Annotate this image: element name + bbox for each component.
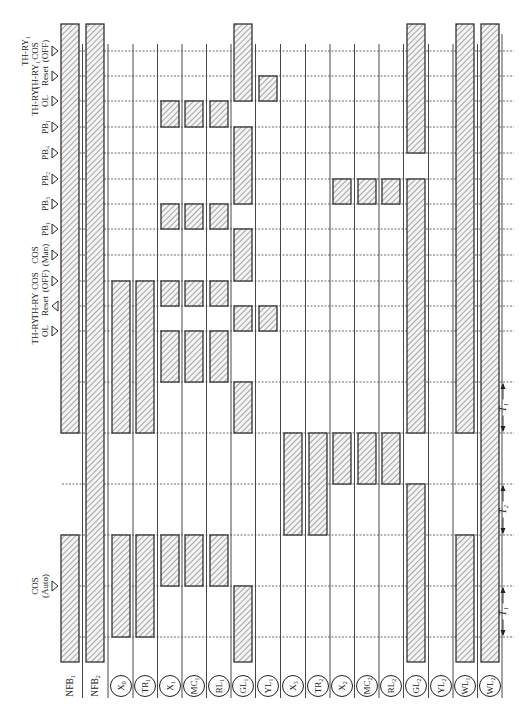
signal-bar-tr2 — [309, 433, 327, 535]
event-label: COS(Man) — [30, 244, 50, 267]
signal-bar-rl2 — [382, 433, 400, 484]
signal-bar-mc1 — [185, 101, 203, 127]
event-triangle-icon — [52, 122, 58, 132]
signal-bar-wl1 — [456, 535, 474, 662]
svg-text:COS: COS — [30, 272, 40, 290]
signal-bars — [61, 24, 499, 662]
event-triangle-icon — [52, 326, 58, 336]
signal-bar-rl1 — [210, 331, 228, 382]
event-label: TH-RYOL — [30, 317, 50, 345]
svg-text:(OFF): (OFF) — [40, 40, 50, 63]
svg-text:Reset: Reset — [40, 66, 50, 86]
signal-bar-mc2 — [358, 179, 376, 204]
svg-text:(Man): (Man) — [40, 244, 50, 267]
signal-bar-mc2 — [358, 433, 376, 484]
svg-text:OL: OL — [40, 95, 50, 107]
signal-bar-tr1 — [136, 535, 154, 637]
signal-bar-x1 — [161, 204, 179, 229]
svg-text:TH-RY: TH-RY — [30, 317, 40, 345]
event-triangle-icon — [52, 96, 58, 106]
signal-bar-x3 — [284, 433, 302, 535]
svg-text:NFB1: NFB1 — [65, 675, 76, 696]
signal-bar-mc1 — [185, 535, 203, 586]
signal-bar-rl2 — [382, 179, 400, 204]
event-triangle-icon — [52, 224, 58, 234]
signal-bar-yl1 — [259, 76, 277, 101]
svg-text:PB₂: PB₂ — [40, 172, 50, 186]
signal-bar-rl1 — [210, 204, 228, 229]
svg-text:OL: OL — [40, 325, 50, 337]
event-label: COS(Auto) — [30, 574, 50, 598]
signal-bar-nfb1 — [61, 24, 79, 433]
signal-bar-rl1 — [210, 281, 228, 306]
signal-bar-gl2 — [407, 484, 425, 662]
signal-bar-wl1 — [456, 24, 474, 433]
event-label: PB₄ — [40, 146, 50, 160]
svg-text:(Auto): (Auto) — [40, 574, 50, 598]
event-triangle-icon — [52, 276, 58, 286]
event-label: TH-RY₁OL — [30, 86, 50, 116]
signal-bar-x0 — [112, 535, 130, 637]
signal-bar-mc1 — [185, 331, 203, 382]
signal-bar-rl1 — [210, 101, 228, 127]
signal-bar-rl1 — [210, 535, 228, 586]
svg-text:TH-RY: TH-RY — [30, 292, 40, 320]
event-label: PB₁ — [40, 222, 50, 236]
svg-text:TH-RY₁: TH-RY₁ — [20, 36, 30, 66]
signal-bar-x2 — [333, 179, 351, 204]
signal-bar-tr1 — [136, 281, 154, 433]
event-label: TH-RYReset — [30, 292, 50, 320]
event-triangle-icon — [52, 174, 58, 184]
event-triangle-icon — [52, 199, 58, 209]
event-triangle-icon — [52, 148, 58, 158]
svg-text:PB₄: PB₄ — [40, 146, 50, 160]
signal-bar-nfb1 — [61, 535, 79, 662]
event-label: PB₁ — [40, 120, 50, 134]
timing-diagram: TH-RY₁COS(OFF)TH-RY₁ResetTH-RY₁OLPB₁PB₄P… — [0, 0, 527, 716]
signal-bar-gl1 — [234, 586, 252, 662]
event-label: COS(OFF) — [30, 270, 50, 293]
interval-label: T₁ — [497, 607, 508, 616]
signal-bar-x2 — [333, 433, 351, 484]
event-label: PB₃ — [40, 197, 50, 211]
svg-text:COS: COS — [30, 42, 40, 60]
signal-bar-gl2 — [407, 179, 425, 433]
signal-bar-yl1 — [259, 306, 277, 331]
signal-bar-wl2 — [481, 24, 499, 662]
svg-text:COS: COS — [30, 246, 40, 264]
svg-text:T₁: T₁ — [497, 403, 508, 412]
event-triangle-icon — [52, 301, 58, 311]
event-triangle-icon — [52, 581, 58, 591]
signal-bar-gl1 — [234, 229, 252, 281]
event-triangle-icon — [52, 71, 58, 81]
timing-diagram-canvas: TH-RY₁COS(OFF)TH-RY₁ResetTH-RY₁OLPB₁PB₄P… — [0, 0, 527, 716]
signal-bar-x1 — [161, 331, 179, 382]
interval-label: T₁ — [497, 403, 508, 412]
event-triangle-icon — [52, 250, 58, 260]
signal-bar-gl1 — [234, 24, 252, 101]
svg-text:PB₁: PB₁ — [40, 120, 50, 134]
event-label: PB₂ — [40, 172, 50, 186]
event-markers: TH-RY₁COS(OFF)TH-RY₁ResetTH-RY₁OLPB₁PB₄P… — [20, 36, 58, 598]
interval-label: T₂ — [497, 504, 508, 514]
signal-bar-nfb2 — [86, 24, 104, 662]
svg-text:COS: COS — [30, 577, 40, 595]
signal-bar-mc1 — [185, 204, 203, 229]
signal-bar-x1 — [161, 281, 179, 306]
signal-bar-mc1 — [185, 281, 203, 306]
svg-text:Reset: Reset — [40, 296, 50, 316]
signal-labels: NFB1NFB2X0TR1X1MC1RL1GL1YL1X3TR2X2MC2RL2… — [65, 675, 501, 696]
svg-text:PB₃: PB₃ — [40, 197, 50, 211]
svg-text:PB₁: PB₁ — [40, 222, 50, 236]
signal-bar-x0 — [112, 281, 130, 433]
signal-bar-gl1 — [234, 127, 252, 204]
svg-text:TH-RY₁: TH-RY₁ — [30, 86, 40, 116]
svg-text:T₂: T₂ — [497, 504, 508, 514]
svg-text:NFB2: NFB2 — [90, 675, 101, 696]
signal-bar-gl1 — [234, 382, 252, 433]
signal-bar-gl2 — [407, 24, 425, 153]
event-triangle-icon — [52, 46, 58, 56]
signal-label-nfb2: NFB2 — [90, 675, 101, 696]
signal-bar-x1 — [161, 101, 179, 127]
svg-text:T₁: T₁ — [497, 607, 508, 616]
